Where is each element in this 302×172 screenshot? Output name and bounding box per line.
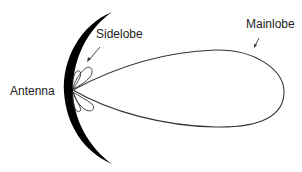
sidelobe-pointer-line bbox=[89, 47, 100, 60]
side-lobe-upper-1 bbox=[73, 67, 92, 89]
antenna-label: Antenna bbox=[10, 84, 55, 98]
side-lobe-lower-1 bbox=[73, 92, 94, 111]
mainlobe-label: Mainlobe bbox=[246, 17, 295, 31]
sidelobe-label: Sidelobe bbox=[96, 27, 143, 41]
mainlobe-pointer-arrowhead bbox=[254, 44, 257, 48]
main-lobe bbox=[73, 50, 284, 127]
